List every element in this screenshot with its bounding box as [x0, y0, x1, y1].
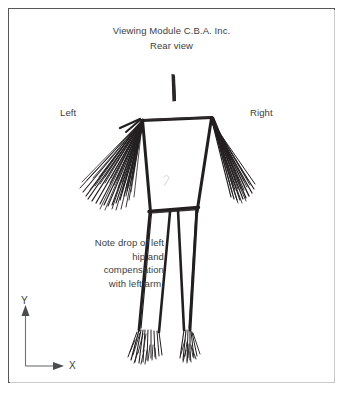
- coordinate-axes: [0, 0, 343, 398]
- axis-label-y: Y: [21, 295, 28, 307]
- x-axis-arrow-icon: [53, 362, 64, 370]
- x-axis: [26, 362, 65, 370]
- screenshot-canvas: Viewing Module C.B.A. Inc. Rear view Lef…: [0, 0, 343, 398]
- y-axis: [22, 305, 30, 366]
- axis-label-x: X: [69, 360, 76, 372]
